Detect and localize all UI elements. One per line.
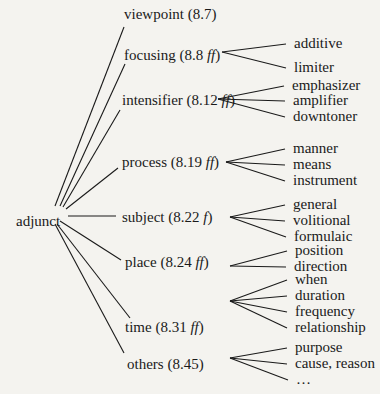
subcategory-node: means: [293, 157, 331, 172]
subcategory-node: purpose: [295, 340, 343, 355]
connector-process-to-child: [226, 149, 285, 162]
category-node-process: process (8.19 ff): [122, 155, 219, 170]
subcategory-node: emphasizer: [292, 78, 360, 93]
subcategory-node: relationship: [295, 320, 366, 335]
subcategory-node: amplifier: [293, 93, 348, 108]
connector-adjunct-to-focusing: [60, 64, 125, 206]
connector-others-to-child: [230, 348, 287, 358]
connector-adjunct-to-others: [55, 224, 124, 353]
subcategory-node: general: [293, 197, 337, 212]
category-node-viewpoint: viewpoint (8.7): [124, 7, 216, 22]
category-node-others: others (8.45): [127, 357, 204, 372]
connector-adjunct-to-intensifier: [63, 110, 120, 207]
connector-adjunct-to-viewpoint: [55, 27, 124, 206]
adjunct-tree-diagram: adjunctviewpoint (8.7)focusing (8.8 ff)a…: [0, 0, 380, 394]
subcategory-node: frequency: [295, 304, 355, 319]
category-node-focusing: focusing (8.8 ff): [124, 48, 220, 63]
subcategory-node: duration: [295, 288, 345, 303]
connector-time-to-child: [230, 296, 287, 301]
subcategory-node: when: [295, 272, 328, 287]
connector-subject-to-child: [230, 205, 285, 217]
connector-focusing-to-child: [222, 52, 286, 68]
connector-place-to-child: [230, 251, 287, 266]
subcategory-node: limiter: [294, 60, 334, 75]
category-node-intensifier: intensifier (8.12 ff): [122, 93, 235, 108]
connector-focusing-to-child: [222, 44, 286, 52]
subcategory-node: instrument: [293, 173, 357, 188]
connector-time-to-child: [230, 280, 287, 301]
category-node-time: time (8.31 ff): [125, 320, 204, 335]
subcategory-node: volitional: [293, 213, 351, 228]
root-node-adjunct: adjunct: [16, 214, 60, 229]
category-node-place: place (8.24 ff): [125, 255, 209, 270]
connector-adjunct-to-time: [57, 224, 130, 318]
subcategory-node: position: [295, 243, 343, 258]
connector-place-to-child: [230, 266, 286, 267]
subcategory-node: downtoner: [293, 109, 357, 124]
subcategory-node: cause, reason: [295, 356, 375, 371]
subcategory-node: …: [296, 372, 311, 387]
category-node-subject: subject (8.22 f): [122, 210, 212, 225]
subcategory-node: additive: [294, 36, 342, 51]
subcategory-node: manner: [293, 141, 338, 156]
connector-time-to-child: [230, 301, 287, 328]
connector-time-to-child: [230, 301, 287, 312]
